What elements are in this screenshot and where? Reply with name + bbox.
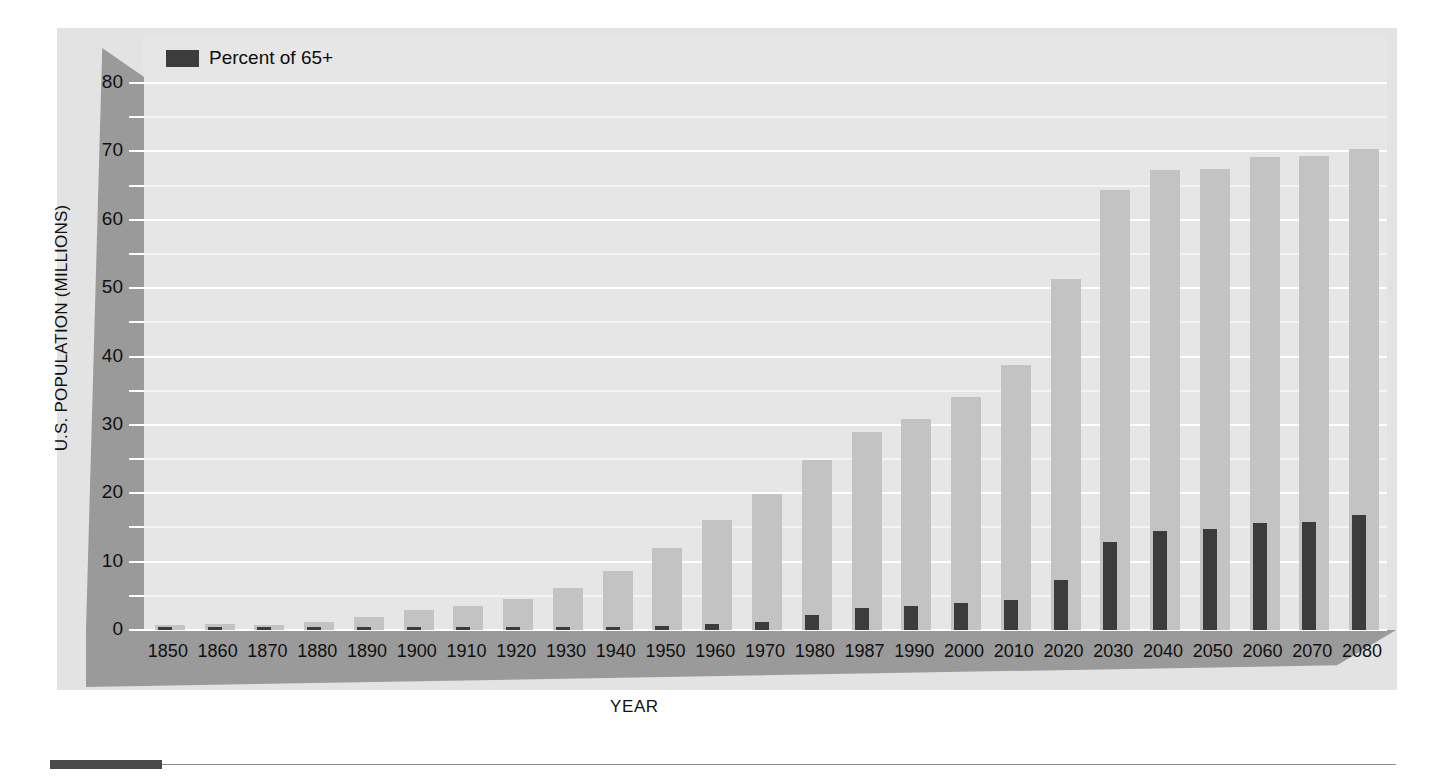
x-tick-label-1987: 1987	[840, 641, 890, 662]
bar-percent65plus-1900	[407, 627, 421, 630]
x-tick-label-2020: 2020	[1039, 641, 1089, 662]
y-tick-mark-5	[129, 595, 143, 597]
y-tick-mark-15	[129, 526, 143, 528]
y-tick-mark-25	[129, 458, 143, 460]
y-tick-label-40: 40	[79, 345, 123, 367]
x-tick-label-1870: 1870	[242, 641, 292, 662]
bar-percent65plus-1880	[307, 627, 321, 630]
bar-percent65plus-1990	[904, 606, 918, 630]
x-tick-label-1960: 1960	[690, 641, 740, 662]
bar-percent65plus-1910	[456, 627, 470, 630]
bar-percent65plus-1870	[257, 627, 271, 630]
bar-percent65plus-1850	[158, 627, 172, 630]
x-tick-label-2060: 2060	[1238, 641, 1288, 662]
y-tick-mark-80	[129, 82, 143, 84]
bar-percent65plus-2040	[1153, 531, 1167, 630]
x-tick-label-1860: 1860	[193, 641, 243, 662]
gridline-80	[143, 82, 1387, 84]
x-axis-title: YEAR	[610, 697, 659, 717]
bar-percent65plus-1890	[357, 627, 371, 630]
x-tick-label-1880: 1880	[292, 641, 342, 662]
bar-percent65plus-2000	[954, 603, 968, 630]
x-tick-label-1910: 1910	[441, 641, 491, 662]
y-tick-mark-50	[129, 287, 143, 289]
y-tick-mark-0	[129, 629, 143, 631]
bar-percent65plus-2030	[1103, 542, 1117, 630]
bar-percent65plus-2020	[1054, 580, 1068, 630]
bar-total-2000	[951, 397, 981, 630]
legend-swatch-percent-65plus	[166, 50, 199, 67]
y-tick-label-80: 80	[79, 71, 123, 93]
bar-percent65plus-1960	[705, 624, 719, 630]
x-tick-label-1950: 1950	[640, 641, 690, 662]
y-tick-label-30: 30	[79, 413, 123, 435]
bar-percent65plus-1920	[506, 627, 520, 630]
bar-total-1970	[752, 494, 782, 630]
x-tick-label-1940: 1940	[591, 641, 641, 662]
x-tick-label-1900: 1900	[392, 641, 442, 662]
legend-label-percent-65plus: Percent of 65+	[209, 47, 333, 69]
y-tick-label-70: 70	[79, 139, 123, 161]
legend: Percent of 65+	[166, 47, 333, 69]
bar-percent65plus-2010	[1004, 600, 1018, 630]
y-tick-label-20: 20	[79, 481, 123, 503]
y-tick-mark-10	[129, 561, 143, 563]
x-tick-label-2070: 2070	[1287, 641, 1337, 662]
bar-total-1930	[553, 588, 583, 630]
bar-percent65plus-1930	[556, 627, 570, 630]
bar-percent65plus-2060	[1253, 523, 1267, 630]
y-tick-mark-40	[129, 356, 143, 358]
bar-percent65plus-1980	[805, 615, 819, 630]
bar-total-1950	[652, 548, 682, 630]
bar-percent65plus-1940	[606, 627, 620, 630]
y-tick-mark-75	[129, 116, 143, 118]
bar-total-2010	[1001, 365, 1031, 630]
y-tick-mark-60	[129, 219, 143, 221]
y-tick-label-50: 50	[79, 276, 123, 298]
y-tick-mark-30	[129, 424, 143, 426]
bar-percent65plus-1970	[755, 622, 769, 630]
bar-percent65plus-2080	[1352, 515, 1366, 630]
x-tick-label-1850: 1850	[143, 641, 193, 662]
y-tick-mark-45	[129, 321, 143, 323]
gridline-70	[143, 150, 1387, 152]
figure: 01020304050607080 U.S. POPULATION (MILLI…	[0, 0, 1436, 781]
x-tick-label-2040: 2040	[1138, 641, 1188, 662]
bar-total-1990	[901, 419, 931, 630]
footer-rule-dark	[50, 760, 162, 769]
bar-total-1960	[702, 520, 732, 630]
bar-total-1920	[503, 599, 533, 630]
x-tick-label-1930: 1930	[541, 641, 591, 662]
x-tick-label-2000: 2000	[939, 641, 989, 662]
x-tick-label-2030: 2030	[1088, 641, 1138, 662]
y-tick-mark-20	[129, 492, 143, 494]
bar-total-1980	[802, 460, 832, 630]
x-tick-label-1980: 1980	[790, 641, 840, 662]
bar-percent65plus-1860	[208, 627, 222, 630]
bar-percent65plus-2070	[1302, 522, 1316, 630]
x-tick-label-1990: 1990	[889, 641, 939, 662]
bar-percent65plus-1987	[855, 608, 869, 630]
y-axis-title: U.S. POPULATION (MILLIONS)	[52, 148, 72, 508]
y-tick-mark-55	[129, 253, 143, 255]
y-tick-label-60: 60	[79, 208, 123, 230]
y-tick-mark-35	[129, 390, 143, 392]
bar-total-1987	[852, 432, 882, 630]
y-tick-mark-70	[129, 150, 143, 152]
gridline-75	[143, 116, 1387, 118]
x-tick-label-1890: 1890	[342, 641, 392, 662]
footer-rule-thin	[162, 764, 1396, 765]
x-tick-label-2080: 2080	[1337, 641, 1387, 662]
bar-percent65plus-1950	[655, 626, 669, 630]
y-tick-label-10: 10	[79, 550, 123, 572]
y-tick-label-0: 0	[79, 618, 123, 640]
bar-total-1940	[603, 571, 633, 630]
x-tick-label-1920: 1920	[491, 641, 541, 662]
x-tick-label-1970: 1970	[740, 641, 790, 662]
y-tick-mark-65	[129, 185, 143, 187]
bar-percent65plus-2050	[1203, 529, 1217, 630]
bar-total-2020	[1051, 279, 1081, 630]
x-tick-label-2050: 2050	[1188, 641, 1238, 662]
x-tick-label-2010: 2010	[989, 641, 1039, 662]
